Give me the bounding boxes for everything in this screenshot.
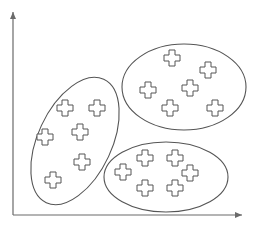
- cross-outline-icon: [74, 154, 90, 170]
- cluster-ellipse: [13, 64, 138, 219]
- cross-outline-icon: [167, 150, 183, 166]
- cross-outline-icon: [182, 165, 198, 181]
- clusters: [13, 44, 246, 218]
- cross-outline-icon: [182, 80, 198, 96]
- cross-outline-icon: [200, 62, 216, 78]
- cross-outline-icon: [140, 82, 156, 98]
- cross-outline-icon: [137, 180, 153, 196]
- cluster-diagram: [0, 0, 260, 230]
- cross-outline-icon: [57, 100, 73, 116]
- cross-outline-icon: [162, 100, 178, 116]
- bottom-right-cluster: [104, 142, 228, 212]
- cross-outline-icon: [115, 164, 131, 180]
- top-right-cluster: [122, 44, 246, 130]
- cross-outline-icon: [164, 50, 180, 66]
- cross-outline-icon: [137, 150, 153, 166]
- left-cluster: [13, 64, 138, 219]
- cross-outline-icon: [167, 180, 183, 196]
- diagram-canvas: [0, 0, 260, 230]
- cross-outline-icon: [72, 124, 88, 140]
- cross-outline-icon: [207, 100, 223, 116]
- cross-outline-icon: [89, 100, 105, 116]
- cross-outline-icon: [45, 172, 61, 188]
